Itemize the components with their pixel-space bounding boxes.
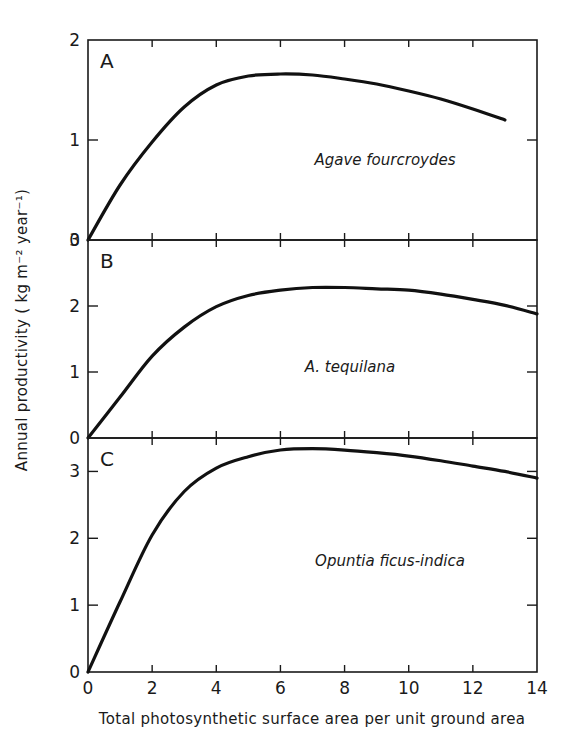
y-tick-label: 2	[69, 296, 80, 316]
panel-letter: A	[100, 49, 114, 73]
species-label: Opuntia ficus-indica	[315, 552, 465, 570]
x-tick-label: 10	[398, 678, 420, 698]
y-tick-label: 0	[69, 662, 80, 682]
y-tick-label: 1	[69, 130, 80, 150]
x-axis-label: Total photosynthetic surface area per un…	[99, 710, 525, 728]
productivity-chart: 012AAgave fourcroydes0123BA. tequilana01…	[0, 0, 573, 740]
y-tick-label: 3	[69, 230, 80, 250]
y-tick-label: 2	[69, 528, 80, 548]
x-tick-label: 0	[83, 678, 94, 698]
x-tick-label: 2	[147, 678, 158, 698]
x-tick-label: 12	[462, 678, 484, 698]
y-tick-label: 1	[69, 595, 80, 615]
x-tick-label: 14	[526, 678, 548, 698]
panel-b: 0123BA. tequilana	[69, 230, 537, 448]
panel-letter: B	[100, 249, 114, 273]
x-tick-label: 8	[339, 678, 350, 698]
y-tick-label: 1	[69, 362, 80, 382]
y-axis-label: Annual productivity ( kg m⁻² year⁻¹)	[13, 189, 31, 471]
y-tick-label: 0	[69, 428, 80, 448]
panel-letter: C	[100, 447, 114, 471]
productivity-curve	[88, 449, 537, 672]
species-label: A. tequilana	[304, 358, 395, 376]
plot-frame	[88, 240, 537, 438]
panel-a: 012AAgave fourcroydes	[69, 30, 537, 250]
x-tick-label: 4	[211, 678, 222, 698]
panel-c: 0123COpuntia ficus-indica	[69, 438, 537, 682]
y-tick-label: 3	[69, 461, 80, 481]
plot-frame	[88, 438, 537, 672]
y-tick-label: 2	[69, 30, 80, 50]
x-tick-label: 6	[275, 678, 286, 698]
species-label: Agave fourcroydes	[313, 151, 455, 169]
